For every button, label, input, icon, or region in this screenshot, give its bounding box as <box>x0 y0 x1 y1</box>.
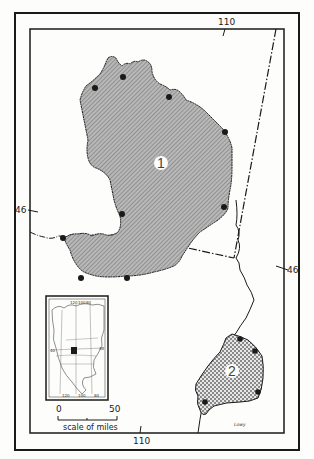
inset-label-120-bottom: 120 <box>62 393 70 398</box>
scale-start-label: 0 <box>56 404 62 414</box>
region-1-label: 1 <box>157 155 165 171</box>
inset-locator-map: 120 100 80 40 40 120 100 80 <box>46 296 108 400</box>
scale-bar: 0 50 scale of miles <box>56 404 121 432</box>
inset-label-40-right: 40 <box>99 346 105 351</box>
inset-label-120-top: 120 <box>70 300 78 305</box>
latitude-label-left: 46 <box>15 205 27 215</box>
state-boundary-north-south <box>234 29 276 258</box>
scale-caption: scale of miles <box>63 423 118 432</box>
inset-label-80-top: 80 <box>86 300 92 305</box>
inset-label-80-bottom: 80 <box>94 393 100 398</box>
artist-signature: Lowy <box>234 422 246 427</box>
scale-end-label: 50 <box>109 404 121 414</box>
inset-label-100-top: 100 <box>78 300 86 305</box>
inset-label-100-bottom: 100 <box>78 393 86 398</box>
inset-study-area-marker <box>71 347 77 354</box>
longitude-label-bottom: 110 <box>133 436 150 446</box>
inset-label-40-left: 40 <box>50 348 56 353</box>
region-2-label: 2 <box>228 363 236 379</box>
latitude-label-right: 46 <box>287 265 299 275</box>
longitude-tick-top <box>223 29 225 36</box>
range-region-1 <box>64 57 232 278</box>
longitude-tick-bottom <box>140 426 141 433</box>
range-map: 110 110 46 46 1 2 <box>0 0 314 459</box>
longitude-label-top: 110 <box>218 17 235 27</box>
